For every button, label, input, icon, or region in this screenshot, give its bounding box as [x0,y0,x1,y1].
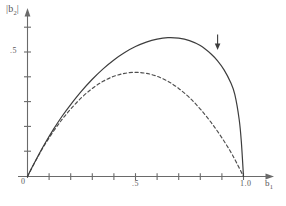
y-axis-arrowhead [25,8,31,17]
dashed-boundary-curve [28,72,244,176]
x-tick-label-one: 1.0 [240,179,252,188]
y-tick-label-half: .5 [10,46,17,55]
plot-canvas [0,0,286,206]
plot-figure: |b2| b1 .5 0 .5 1.0 [0,0,286,206]
y-axis-label: |b2| [6,3,19,16]
down-arrow-marker [215,35,221,51]
solid-boundary-curve [28,38,244,177]
x-tick-label-zero: 0 [21,177,26,186]
x-axis-label-subscript: 1 [270,183,273,190]
x-tick-label-half: .5 [132,179,139,188]
x-axis-label: b1 [265,178,273,190]
